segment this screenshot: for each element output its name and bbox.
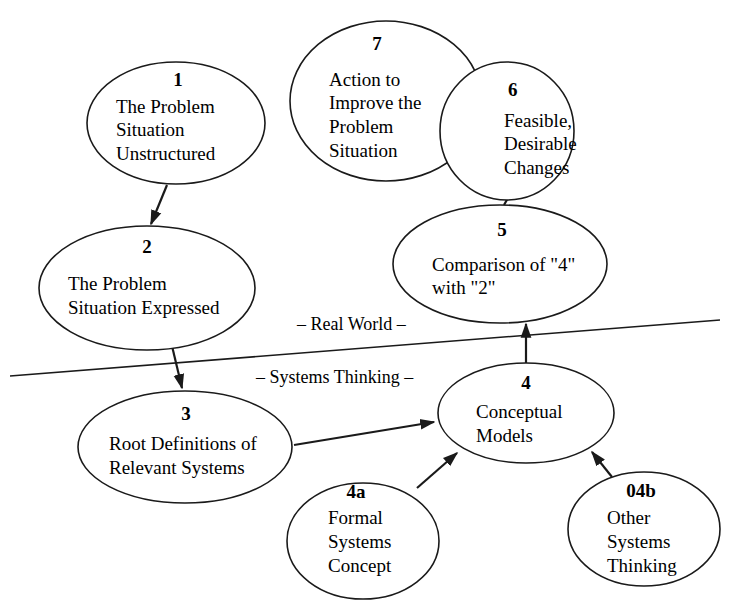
edge-04b-to-4: [592, 452, 612, 477]
region-label-real-world: – Real World –: [296, 314, 407, 334]
edge-1-to-2: [151, 185, 167, 224]
node-6-number: 6: [508, 79, 518, 100]
node-3-number: 3: [181, 403, 191, 424]
node-3-line-2: Relevant Systems: [109, 457, 245, 478]
node-6-line-3: Changes: [504, 157, 569, 178]
node-4a-number: 4a: [347, 481, 367, 502]
node-7-line-3: Problem: [329, 116, 394, 137]
node-5-line-2: with "2": [432, 277, 496, 298]
edge-3-to-4: [294, 422, 434, 445]
node-4-line-2: Models: [476, 425, 533, 446]
node-4a-line-1: Formal: [328, 507, 383, 528]
node-7-line-4: Situation: [329, 140, 398, 161]
node-4a-line-3: Concept: [328, 555, 392, 576]
node-2-line-2: Situation Expressed: [68, 297, 220, 318]
node-1-line-2: Situation: [116, 119, 185, 140]
node-2-number: 2: [142, 236, 152, 257]
node-1-line-3: Unstructured: [116, 143, 216, 164]
node-6-line-2: Desirable: [504, 133, 577, 154]
edge-2-to-3: [172, 346, 182, 388]
node-4a-line-2: Systems: [328, 531, 391, 552]
node-1-line-1: The Problem: [116, 96, 215, 117]
node-5-line-1: Comparison of "4": [432, 254, 575, 275]
node-7-number: 7: [372, 33, 382, 54]
node-04b-line-1: Other: [607, 507, 651, 528]
node-2-line-1: The Problem: [68, 273, 167, 294]
node-5-number: 5: [497, 219, 507, 240]
region-label-systems-thinking: – Systems Thinking –: [255, 367, 414, 387]
node-4-number: 4: [521, 372, 531, 393]
node-7-line-2: Improve the: [329, 92, 421, 113]
soft-systems-diagram: – Real World – – Systems Thinking – 1 Th…: [0, 0, 751, 612]
edge-4a-to-4: [417, 453, 457, 488]
node-1-number: 1: [173, 69, 183, 90]
node-04b-number: 04b: [626, 480, 656, 501]
node-6-shape: [440, 62, 574, 200]
node-3-line-1: Root Definitions of: [109, 433, 257, 454]
node-7-line-1: Action to: [329, 69, 400, 90]
node-6-line-1: Feasible,: [504, 110, 572, 131]
node-04b-line-3: Thinking: [607, 555, 677, 576]
node-04b-line-2: Systems: [607, 531, 670, 552]
node-4-line-1: Conceptual: [476, 401, 563, 422]
